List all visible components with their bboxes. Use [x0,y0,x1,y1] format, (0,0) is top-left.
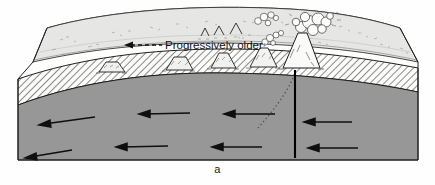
progressively-older-label: Progressively older [165,39,263,51]
figure-caption: a [0,163,435,175]
hotspot-block-diagram: Progressively older [0,0,435,185]
figure-root: Progressively older [0,0,435,185]
